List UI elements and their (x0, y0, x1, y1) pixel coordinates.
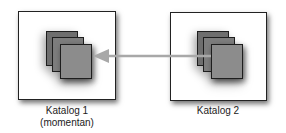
catalog-2-label: Katalog 2 (168, 105, 268, 117)
catalog-1-sublabel: (momentan) (17, 117, 117, 129)
arrowhead-icon (93, 49, 109, 63)
catalog-1-label: Katalog 1 (17, 105, 117, 117)
